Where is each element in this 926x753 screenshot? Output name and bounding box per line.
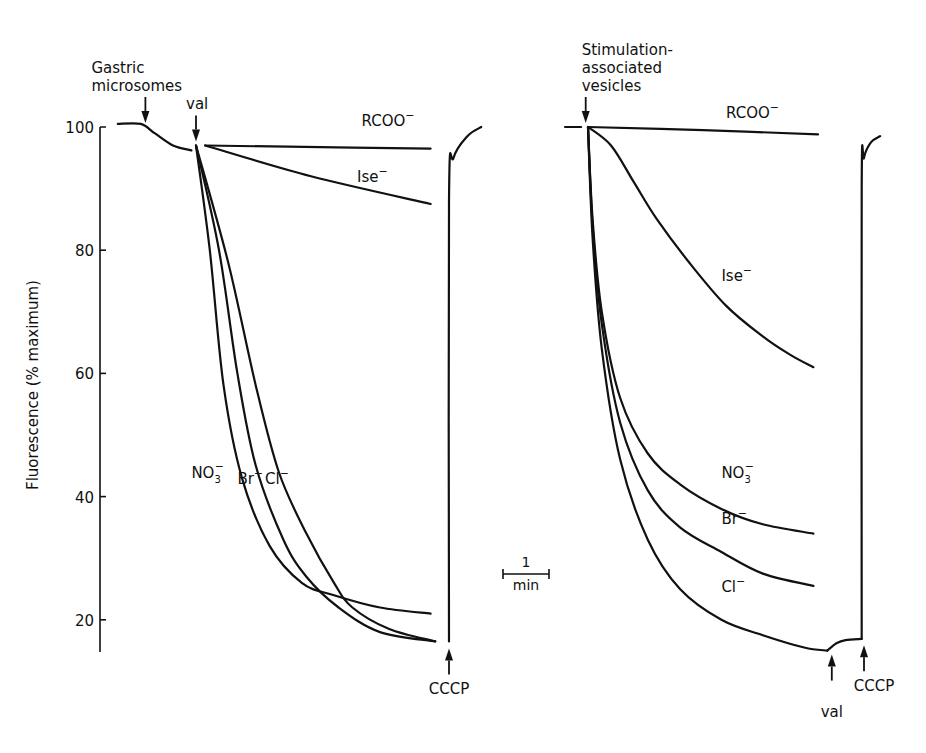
y-axis-left: 10080604020 Fluorescence (% maximum) <box>24 119 106 652</box>
series-label-rcoo: RCOO− <box>362 109 415 130</box>
annotation-stimulation-associated-vesicles: associated <box>582 59 662 77</box>
series-label-rcoo: RCOO− <box>726 101 779 122</box>
cccp-recovery-trace <box>862 136 881 639</box>
post-val-trace <box>827 639 862 651</box>
series-line-cl <box>588 127 827 651</box>
series-label-cl: Cl− <box>265 467 289 488</box>
series-line-ise <box>588 127 813 367</box>
time-scale-bar: 1 min <box>503 554 549 593</box>
right-panel: RCOO−Ise−NO3−Br−Cl−Stimulation-associate… <box>565 41 894 721</box>
y-tick-label: 20 <box>75 612 94 630</box>
series-no3: NO3− <box>588 127 813 534</box>
y-tick-label: 80 <box>75 242 94 260</box>
series-line-no3 <box>196 146 431 614</box>
series-line-br <box>588 127 813 586</box>
arrow-cccp <box>860 645 868 671</box>
left-panel: RCOO−Ise−NO3−Br−Cl−GastricmicrosomesvalC… <box>91 59 481 698</box>
annotation-cccp: CCCP <box>429 680 469 698</box>
arrow-val <box>828 655 836 681</box>
cccp-recovery-trace <box>449 127 482 641</box>
series-line-no3 <box>588 127 813 534</box>
chart-figure: 10080604020 Fluorescence (% maximum) RCO… <box>0 0 926 753</box>
series-label-no3: NO3− <box>721 460 754 485</box>
y-tick-label: 40 <box>75 489 94 507</box>
series-line-ise <box>205 146 430 205</box>
series-label-ise: Ise− <box>357 165 388 186</box>
series-br: Br− <box>588 127 813 586</box>
y-axis-line <box>100 127 106 652</box>
arrow-gastric-microsomes <box>141 97 149 123</box>
baseline-trace <box>118 123 192 150</box>
series-label-br: Br− <box>721 507 747 528</box>
series-line-rcoo <box>588 127 818 134</box>
series-cl: Cl− <box>196 146 435 642</box>
series-br: Br− <box>196 146 435 642</box>
scale-bar-unit: min <box>513 577 539 593</box>
series-line-rcoo <box>205 146 430 149</box>
annotation-cccp: CCCP <box>854 677 894 695</box>
y-tick-label: 60 <box>75 365 94 383</box>
series-line-cl <box>196 146 435 642</box>
series-cl: Cl− <box>588 127 827 651</box>
series-ise: Ise− <box>205 146 430 205</box>
series-label-ise: Ise− <box>721 264 752 285</box>
annotation-gastric-microsomes: microsomes <box>91 77 182 95</box>
arrow-cccp <box>445 648 453 674</box>
annotation-val: val <box>821 703 843 721</box>
series-rcoo: RCOO− <box>205 109 430 149</box>
series-label-br: Br− <box>237 467 263 488</box>
annotation-val: val <box>186 95 208 113</box>
y-tick-label: 100 <box>65 119 94 137</box>
series-label-no3: NO3− <box>191 460 224 485</box>
series-ise: Ise− <box>588 127 813 367</box>
annotation-stimulation-associated-vesicles: vesicles <box>582 77 642 95</box>
annotation-stimulation-associated-vesicles: Stimulation- <box>582 41 673 59</box>
series-rcoo: RCOO− <box>588 101 818 135</box>
annotation-gastric-microsomes: Gastric <box>91 59 144 77</box>
arrow-val <box>192 115 200 141</box>
arrow-stimulation-associated-vesicles <box>582 97 590 123</box>
series-label-cl: Cl− <box>721 575 745 596</box>
y-axis-label: Fluorescence (% maximum) <box>24 280 42 490</box>
series-line-br <box>196 146 435 642</box>
scale-bar-value: 1 <box>522 554 531 570</box>
